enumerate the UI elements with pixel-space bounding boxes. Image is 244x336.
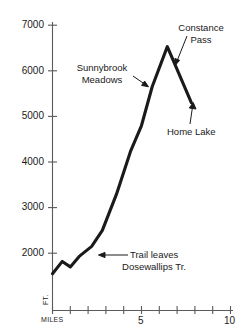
y-tick-label-4000: 4000 (8, 156, 44, 167)
annotation-sunnybrook-meadows-line2: Meadows (68, 74, 136, 86)
y-tick-label-3000: 3000 (8, 201, 44, 212)
y-tick-label-2000: 2000 (8, 247, 44, 258)
annotation-constance-pass: Constance Pass (170, 22, 232, 45)
elevation-profile-chart: 7000 6000 5000 4000 3000 2000 MILES 5 10… (0, 0, 244, 336)
annotation-trail-leaves-line2: Dosewallips Tr. (104, 261, 204, 273)
chart-canvas (0, 0, 244, 336)
x-tick-label-10: 10 (224, 315, 235, 326)
annotation-constance-pass-line1: Constance (170, 22, 232, 34)
annotation-home-lake-line1: Home Lake (167, 126, 216, 138)
annotation-trail-leaves: Trail leaves Dosewallips Tr. (104, 249, 204, 272)
y-axis-label-ft: FT. (42, 294, 49, 305)
annotation-sunnybrook-meadows-line1: Sunnybrook (68, 62, 136, 74)
x-tick-label-5: 5 (138, 315, 144, 326)
annotation-home-lake: Home Lake (167, 126, 216, 138)
y-tick-label-7000: 7000 (8, 19, 44, 30)
leader-home-lake (189, 103, 196, 125)
annotation-sunnybrook-meadows: Sunnybrook Meadows (68, 62, 136, 85)
x-axis-label-miles: MILES (41, 316, 64, 323)
annotation-trail-leaves-line1: Trail leaves (104, 249, 204, 261)
y-tick-label-5000: 5000 (8, 110, 44, 121)
annotation-constance-pass-line2: Pass (170, 34, 232, 46)
y-tick-label-6000: 6000 (8, 65, 44, 76)
